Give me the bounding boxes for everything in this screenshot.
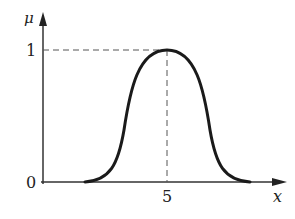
y-axis-label: μ [24, 9, 34, 27]
y-axis-arrow-icon [39, 12, 47, 26]
y-tick-zero: 0 [26, 173, 36, 192]
x-axis-label: x [273, 187, 282, 206]
membership-function-diagram: μ 1 0 5 x [0, 0, 295, 219]
x-axis-arrow-icon [272, 178, 287, 186]
x-tick-five: 5 [162, 187, 172, 206]
y-tick-one: 1 [26, 41, 36, 60]
